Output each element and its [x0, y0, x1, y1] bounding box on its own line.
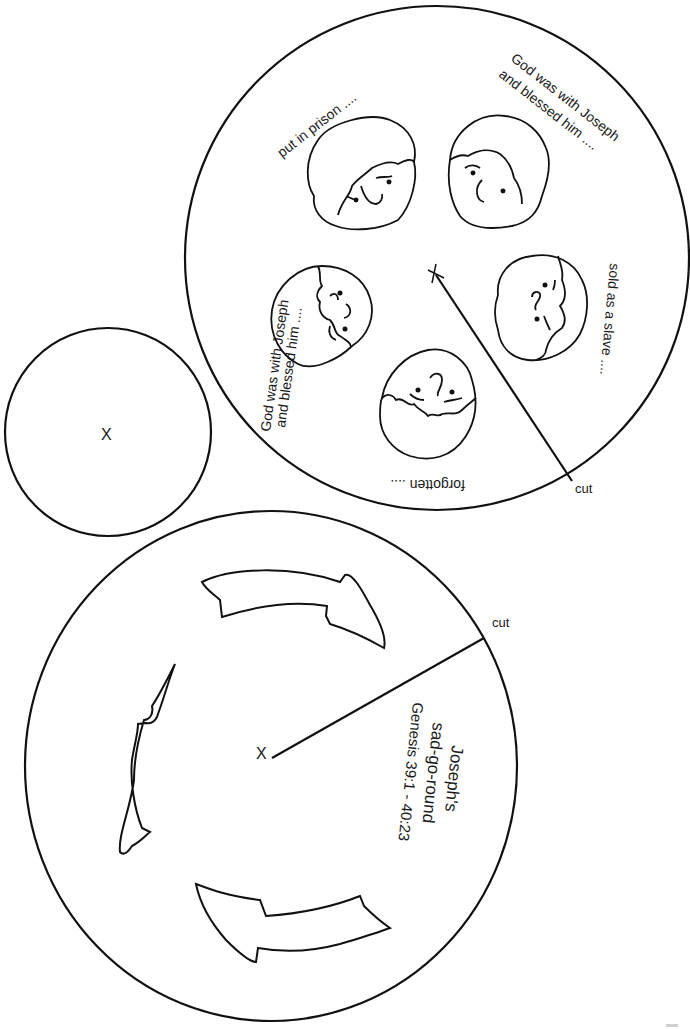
- small-circle: X: [5, 328, 211, 536]
- caption-forgotten: forgotten ....: [390, 477, 465, 493]
- top-wheel: cut put in prison .... God was with Jose…: [185, 6, 689, 510]
- page-number-fragment: [666, 1024, 678, 1027]
- top-wheel-cut-label: cut: [575, 481, 593, 496]
- caption-sold-as-slave: sold as a slave ....: [597, 263, 623, 376]
- caption-put-in-prison: put in prison ....: [274, 89, 359, 161]
- arrow-left-icon: [120, 664, 175, 854]
- small-circle-center-mark: X: [101, 426, 112, 443]
- bottom-wheel: cut X Joseph's sad-go-round Genesis 39:1…: [25, 511, 517, 1021]
- bottom-wheel-cut-label: cut: [492, 615, 510, 630]
- top-wheel-center-mark-icon: [428, 264, 444, 283]
- happy-face-blessed-icon: [449, 115, 549, 227]
- sad-face-slave-icon: [495, 255, 587, 360]
- arrow-bottom-icon: [196, 884, 390, 962]
- sad-face-prison-icon: [308, 117, 415, 229]
- bottom-wheel-cut-line: [272, 638, 484, 758]
- sad-face-forgotten-icon: [380, 349, 476, 458]
- arrow-top-icon: [202, 570, 384, 648]
- bottom-wheel-center-mark: X: [256, 745, 267, 762]
- worksheet-canvas: cut put in prison .... God was with Jose…: [0, 0, 690, 1029]
- top-wheel-outline: [185, 6, 689, 510]
- top-wheel-cut-line: [436, 275, 572, 481]
